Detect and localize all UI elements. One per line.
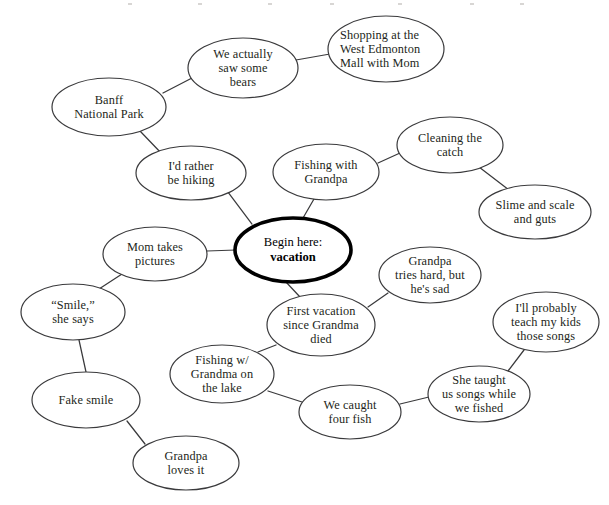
node-ellipse-cleaning[interactable] [397,117,503,173]
node-ellipse-slime[interactable] [479,185,591,239]
node-ellipse-fake-smile[interactable] [32,372,140,428]
node-ellipse-teach-kids[interactable] [493,292,599,352]
edge-mom-pictures-to-smile [99,274,122,289]
edge-center-to-first-vacation [286,282,300,297]
node-ellipse-grandpa-sad[interactable] [379,247,481,303]
node-ellipse-fishing-grandma[interactable] [170,345,274,403]
edge-smile-to-fake-smile [79,340,86,372]
edge-first-vacation-to-fishing-grandma [258,345,276,352]
node-ellipse-hiking[interactable] [136,146,246,200]
edge-fake-smile-to-grandpa-loves [127,421,145,444]
node-ellipse-smile[interactable] [21,284,125,340]
edge-center-to-fishing-grandpa [303,199,314,218]
node-ellipse-grandpa-loves[interactable] [133,436,239,490]
edge-cleaning-to-slime [479,167,509,190]
edge-fishing-grandma-to-four-fish [268,391,302,402]
node-layer [21,16,599,490]
node-ellipse-bears[interactable] [188,38,298,98]
edge-banff-to-bears [163,78,192,93]
edge-first-vacation-to-grandpa-sad [368,293,388,307]
node-ellipse-fishing-grandpa[interactable] [273,144,379,200]
node-ellipse-she-taught[interactable] [428,366,530,422]
node-ellipse-mom-pictures[interactable] [103,227,207,281]
edge-bears-to-shopping [296,54,330,60]
mind-map-graphics [0,0,609,505]
edge-four-fish-to-she-taught [400,397,429,404]
node-ellipse-shopping[interactable] [328,16,444,82]
node-ellipse-center[interactable] [235,218,351,282]
edge-center-to-mom-pictures [207,250,236,251]
mind-map-canvas: Begin here:vacationBanff National ParkWe… [0,0,609,505]
edge-she-taught-to-teach-kids [508,350,524,371]
node-ellipse-four-fish[interactable] [299,385,401,439]
edge-hiking-to-center [228,192,252,224]
node-ellipse-first-vacation[interactable] [267,294,375,356]
node-ellipse-banff[interactable] [52,78,166,136]
edge-fishing-grandpa-to-cleaning [378,153,400,163]
